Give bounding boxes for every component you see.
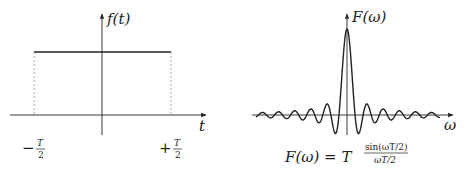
svg-text:ωT/2: ωT/2 xyxy=(374,155,396,165)
svg-text:2: 2 xyxy=(38,150,44,160)
svg-text:−: − xyxy=(22,139,35,157)
F-axis-label: F(ω) xyxy=(351,8,386,26)
rect-pulse-panel: f(t) t − T 2 + T 2 xyxy=(10,10,206,160)
svg-text:2: 2 xyxy=(175,150,181,160)
svg-text:T: T xyxy=(174,138,181,148)
sinc-formula: F(ω) = T sin(ωT/2) ωT/2 xyxy=(284,142,408,166)
f-axis-label: f(t) xyxy=(106,10,130,28)
omega-axis-label: ω xyxy=(444,116,456,134)
svg-text:sin(ωT/2): sin(ωT/2) xyxy=(365,142,407,152)
sinc-curve xyxy=(256,29,440,134)
left-tick-label: − T 2 xyxy=(22,138,45,160)
svg-text:T: T xyxy=(37,138,44,148)
t-axis-label: t xyxy=(199,117,206,135)
svg-text:+: + xyxy=(159,139,172,157)
sinc-spectrum-panel: F(ω) ω F(ω) = T sin(ωT/2) ωT/2 xyxy=(252,8,456,166)
fourier-transform-diagram: f(t) t − T 2 + T 2 F(ω) ω F(ω) = T sin(ω… xyxy=(0,0,465,176)
right-tick-label: + T 2 xyxy=(159,138,182,160)
svg-text:F(ω) = T: F(ω) = T xyxy=(284,148,352,166)
